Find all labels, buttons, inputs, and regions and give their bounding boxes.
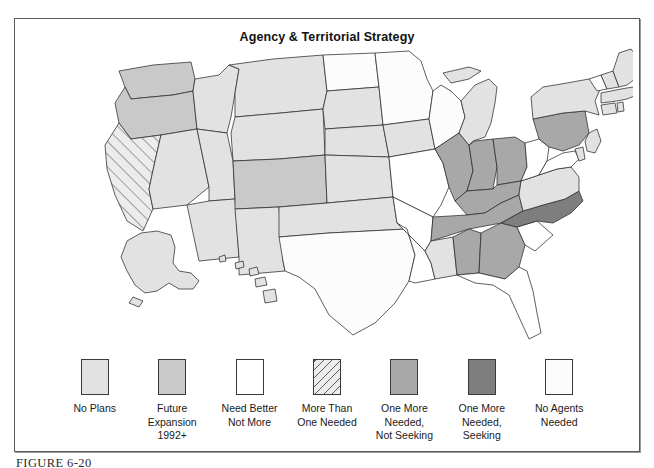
state-SD[interactable] <box>323 87 383 129</box>
state-MT[interactable] <box>229 55 327 117</box>
legend-label-future-expansion: Future Expansion 1992+ <box>148 402 197 443</box>
legend-swatch-one-more-seeking <box>468 359 496 395</box>
figure-caption: FIGURE 6-20 <box>16 456 92 468</box>
state-AZ[interactable] <box>187 199 239 261</box>
legend-item-need-better-not-more[interactable]: Need Better Not More <box>216 359 283 429</box>
state-KS[interactable] <box>325 155 393 203</box>
legend-swatch-no-agents-needed <box>545 359 573 395</box>
legend-label-no-plans: No Plans <box>73 402 116 416</box>
state-CT[interactable] <box>601 103 617 115</box>
legend-swatch-one-more-not-seeking <box>390 359 418 395</box>
figure-frame: Agency & Territorial Strategy <box>14 18 640 452</box>
legend-item-no-agents-needed[interactable]: No Agents Needed <box>526 359 593 429</box>
state-MN[interactable] <box>375 51 433 125</box>
state-NY[interactable] <box>531 79 601 119</box>
legend-item-more-than-one-needed[interactable]: More Than One Needed <box>293 359 360 429</box>
map-legend: No PlansFuture Expansion 1992+Need Bette… <box>15 359 639 447</box>
legend-item-no-plans[interactable]: No Plans <box>61 359 128 416</box>
legend-item-one-more-not-seeking[interactable]: One More Needed, Not Seeking <box>371 359 438 443</box>
state-NE[interactable] <box>325 125 389 157</box>
chart-title: Agency & Territorial Strategy <box>15 30 639 44</box>
legend-swatch-more-than-one-needed <box>313 359 341 395</box>
state-ND[interactable] <box>323 53 379 91</box>
us-choropleth-map <box>23 45 633 355</box>
legend-item-future-expansion[interactable]: Future Expansion 1992+ <box>138 359 205 443</box>
state-ID[interactable] <box>193 65 239 133</box>
legend-label-more-than-one-needed: More Than One Needed <box>297 402 357 429</box>
legend-label-one-more-not-seeking: One More Needed, Not Seeking <box>376 402 433 443</box>
legend-label-need-better-not-more: Need Better Not More <box>222 402 278 429</box>
state-TX[interactable] <box>279 229 415 335</box>
map-svg <box>23 45 633 355</box>
state-OH[interactable] <box>493 137 527 185</box>
legend-swatch-no-plans <box>81 359 109 395</box>
state-RI[interactable] <box>617 102 624 112</box>
legend-swatch-future-expansion <box>158 359 186 395</box>
legend-label-no-agents-needed: No Agents Needed <box>535 402 583 429</box>
state-AL[interactable] <box>453 229 481 275</box>
legend-label-one-more-seeking: One More Needed, Seeking <box>458 402 505 443</box>
state-CO[interactable] <box>233 155 327 209</box>
state-WY[interactable] <box>231 109 325 161</box>
state-FL[interactable] <box>457 267 541 339</box>
legend-swatch-need-better-not-more <box>236 359 264 395</box>
state-AK[interactable] <box>121 231 199 307</box>
legend-item-one-more-seeking[interactable]: One More Needed, Seeking <box>448 359 515 443</box>
